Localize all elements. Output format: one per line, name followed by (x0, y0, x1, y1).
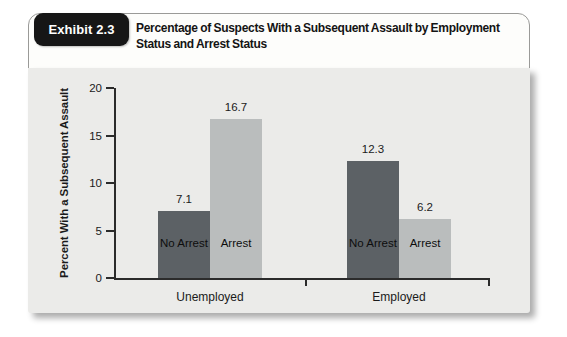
y-tick-mark (106, 135, 114, 137)
category-label: Employed (339, 290, 459, 304)
y-tick-label: 20 (72, 81, 102, 95)
bar: 6.2Arrest (399, 219, 451, 278)
exhibit-title: Percentage of Suspects With a Subsequent… (136, 20, 530, 52)
exhibit-badge: Exhibit 2.3 (34, 13, 129, 46)
bar-value-label: 7.1 (152, 193, 216, 205)
y-tick-label: 5 (72, 224, 102, 238)
bar: 16.7Arrest (210, 119, 262, 278)
bar-inner-label: Arrest (394, 237, 456, 249)
category-label: Unemployed (150, 290, 270, 304)
plot-area: 051015207.1No Arrest16.7ArrestUnemployed… (114, 88, 490, 280)
y-tick-mark (106, 277, 114, 279)
y-tick-mark (106, 87, 114, 89)
y-tick-label: 0 (72, 271, 102, 285)
y-axis-title: Percent With a Subsequent Assault (58, 88, 70, 278)
bar: 12.3No Arrest (347, 161, 399, 278)
y-tick-label: 15 (72, 129, 102, 143)
y-tick-mark (106, 230, 114, 232)
chart-panel: Percent With a Subsequent Assault 051015… (28, 68, 530, 313)
bar-value-label: 12.3 (341, 143, 405, 155)
bar-value-label: 6.2 (393, 201, 457, 213)
y-tick-mark (106, 182, 114, 184)
x-tick-mark (305, 280, 307, 286)
x-tick-mark (488, 280, 490, 286)
y-tick-label: 10 (72, 176, 102, 190)
exhibit-card: Exhibit 2.3 Percentage of Suspects With … (28, 13, 530, 313)
bar-value-label: 16.7 (204, 101, 268, 113)
bar-inner-label: Arrest (205, 237, 267, 249)
bar: 7.1No Arrest (158, 211, 210, 278)
